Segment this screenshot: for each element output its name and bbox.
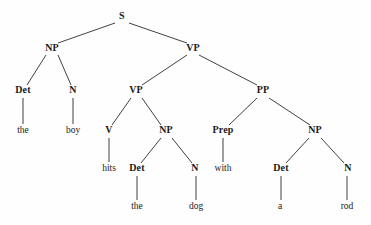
- tree-node-det2: Det: [129, 162, 145, 173]
- tree-edge-NP1-to-N1: [58, 55, 71, 85]
- tree-leaf-rod1: rod: [341, 201, 354, 211]
- tree-edge-layer: [23, 23, 347, 200]
- tree-node-s: S: [119, 10, 125, 21]
- tree-node-v1: V: [105, 124, 113, 135]
- tree-edge-VP1-to-PP1: [199, 55, 257, 85]
- tree-edge-S-to-VP1: [129, 23, 187, 43]
- tree-edge-VP2-to-V1: [112, 98, 131, 125]
- tree-node-n2: N: [191, 162, 199, 173]
- tree-leaf-the2: the: [131, 201, 143, 211]
- tree-edge-S-to-NP1: [58, 23, 115, 43]
- tree-leaf-dog1: dog: [189, 201, 204, 211]
- tree-leaf-with1: with: [215, 163, 232, 173]
- tree-leaf-boy1: boy: [66, 125, 81, 135]
- tree-leaf-the1: the: [17, 125, 29, 135]
- tree-edge-NP2-to-N2: [172, 138, 192, 163]
- tree-node-pp1: PP: [257, 84, 270, 95]
- syntax-tree-figure: SNPVPDetNVPPPtheboyVNPPrepNPhitsDetNwith…: [0, 0, 371, 225]
- tree-edge-VP2-to-NP2: [142, 98, 161, 125]
- tree-node-np1: NP: [45, 42, 59, 53]
- tree-node-det1: Det: [15, 84, 31, 95]
- tree-node-prep1: Prep: [212, 124, 233, 135]
- tree-node-vp1: VP: [186, 42, 200, 53]
- syntax-tree-canvas: SNPVPDetNVPPPtheboyVNPPrepNPhitsDetNwith…: [0, 0, 371, 225]
- tree-edge-PP1-to-NP3: [269, 98, 310, 125]
- tree-edge-VP1-to-VP2: [142, 55, 187, 85]
- tree-edge-PP1-to-Prep1: [229, 98, 257, 125]
- tree-node-n1: N: [69, 84, 77, 95]
- tree-edge-NP1-to-Det1: [27, 55, 46, 85]
- tree-node-vp2: VP: [129, 84, 143, 95]
- tree-node-det3: Det: [273, 162, 289, 173]
- tree-edge-NP3-to-N3: [321, 138, 344, 163]
- tree-edge-NP2-to-Det2: [141, 138, 161, 163]
- tree-node-np2: NP: [159, 124, 173, 135]
- tree-edge-NP3-to-Det3: [286, 138, 309, 163]
- tree-node-np3: NP: [308, 124, 322, 135]
- tree-node-n3: N: [344, 162, 352, 173]
- tree-leaf-a1: a: [278, 201, 283, 211]
- tree-leaf-hits1: hits: [102, 163, 116, 173]
